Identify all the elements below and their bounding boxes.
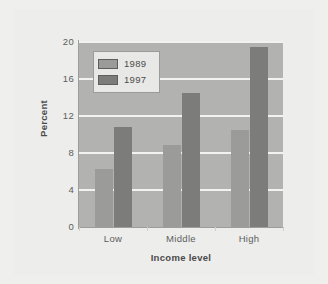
x-axis-tick-label-high: High	[214, 233, 284, 244]
legend-item-1989: 1989	[98, 56, 155, 72]
chart-legend: 19891997	[93, 51, 160, 93]
bar-high-1997	[250, 47, 268, 227]
x-axis-tick-label-middle: Middle	[146, 233, 216, 244]
y-axis-tick-label: 8	[48, 148, 74, 158]
legend-item-1997: 1997	[98, 72, 155, 88]
y-axis-title: Percent	[38, 84, 49, 154]
legend-label: 1989	[124, 59, 146, 69]
y-axis-tick-labels: 048121620	[44, 9, 74, 284]
x-axis-tick-mark	[147, 227, 148, 231]
x-axis-line	[78, 227, 284, 228]
legend-label: 1997	[124, 75, 146, 85]
bar-high-1989	[231, 130, 249, 227]
legend-swatch-icon	[98, 75, 118, 85]
legend-swatch-icon	[98, 59, 118, 69]
x-axis-tick-mark	[283, 227, 284, 231]
bar-middle-1989	[163, 145, 181, 227]
y-axis-tick-label: 12	[48, 111, 74, 121]
bar-low-1997	[114, 127, 132, 227]
bar-low-1989	[95, 169, 113, 227]
bar-middle-1997	[182, 93, 200, 227]
y-axis-tick-label: 0	[48, 222, 74, 232]
y-axis-tick-label: 4	[48, 185, 74, 195]
y-axis-tick-label: 16	[48, 74, 74, 84]
y-axis-tick-label: 20	[48, 37, 74, 47]
x-axis-tick-mark	[215, 227, 216, 231]
y-axis-line	[78, 40, 79, 229]
x-axis-tick-label-low: Low	[78, 233, 148, 244]
figure-card: 048121620 LowMiddleHigh Income level Per…	[14, 9, 314, 275]
gridline	[79, 41, 283, 43]
x-axis-title: Income level	[78, 252, 284, 263]
x-axis-tick-mark	[79, 227, 80, 231]
